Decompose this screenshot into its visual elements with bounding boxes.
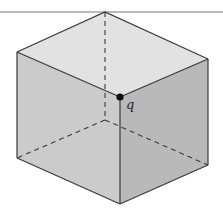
cube-diagram: q	[0, 0, 223, 208]
point-q-label: q	[126, 97, 134, 112]
point-q-marker	[116, 93, 123, 100]
